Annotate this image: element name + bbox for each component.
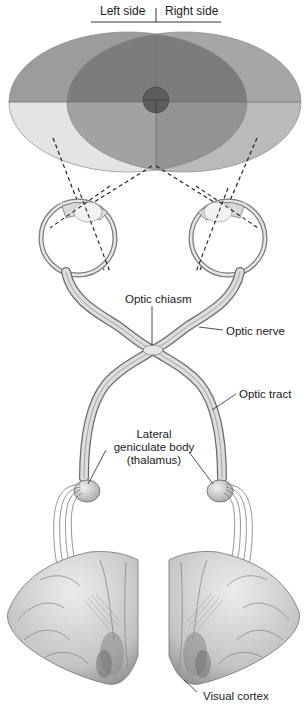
left-eye <box>41 201 115 275</box>
optic-tract-label: Optic tract <box>239 388 291 401</box>
lgb-line-2: geniculate body <box>100 441 208 454</box>
right-occipital-lobe <box>169 551 300 684</box>
visual-cortex-label: Visual cortex <box>203 690 269 703</box>
lgb-line-3: (thalamus) <box>100 454 208 467</box>
right-side-label: Right side <box>165 5 218 18</box>
visual-pathway-diagram <box>0 0 307 710</box>
optic-nerve-leader <box>199 327 223 330</box>
optic-chiasm-label: Optic chiasm <box>125 293 191 306</box>
left-side-label: Left side <box>100 5 145 18</box>
right-eye <box>191 201 265 275</box>
left-occipital-lobe <box>8 551 139 684</box>
optic-chiasm-shape <box>143 345 163 355</box>
lateral-geniculate-label: Lateral geniculate body (thalamus) <box>100 428 208 467</box>
visual-field <box>0 30 307 182</box>
lgb-line-1: Lateral <box>100 428 208 441</box>
optic-nerve-label: Optic nerve <box>226 325 285 338</box>
